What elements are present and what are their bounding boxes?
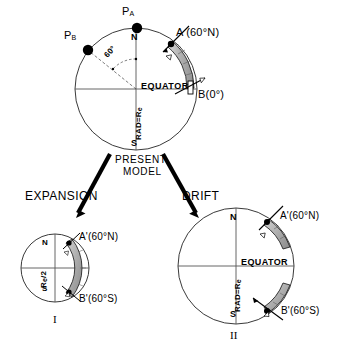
numeral-drift: II: [230, 330, 238, 341]
north-label-expansion: N: [42, 239, 48, 247]
site-b-label-expansion: B'(60°S): [79, 294, 118, 304]
site-a-label-present: A (60°N): [176, 27, 219, 38]
site-a-prime-open-arrow-drift: [260, 233, 265, 238]
radius-label-expansion: Re/2: [40, 271, 48, 288]
branch-arrow-left: [78, 154, 110, 213]
pole-b-label: PB: [64, 30, 76, 41]
north-label-present: N: [131, 33, 138, 42]
site-a-label-drift: A'(60°N): [280, 211, 319, 221]
site-a-open-arrow: [166, 55, 172, 60]
present-model-label-line1: PRESENT: [115, 155, 166, 165]
site-b-label-present: B(0°): [198, 89, 224, 100]
angle-tick-n: [135, 58, 137, 60]
site-a-arrowhead: [163, 48, 168, 53]
numeral-expansion: I: [53, 314, 57, 325]
expansion-model-globe: [21, 233, 89, 302]
pole-b-marker: [83, 45, 93, 55]
equator-label-drift: EQUATOR: [241, 258, 288, 267]
figure-canvas: [0, 0, 341, 350]
south-label-present: S: [131, 139, 137, 148]
radius-label-drift: RAD=Re: [234, 279, 242, 312]
radius-label-present: RAD=Re: [135, 107, 143, 140]
angle-tick-pb: [112, 68, 114, 70]
branch-arrow-right: [163, 154, 196, 213]
angle-arc-60: [113, 59, 136, 69]
branch-label-expansion: EXPANSION: [25, 190, 98, 202]
site-b-prime-arrowhead-drift: [253, 298, 258, 303]
site-b-arrowhead: [200, 78, 205, 83]
equator-label-present: EQUATOR: [141, 82, 189, 91]
site-b-label-drift: B'(60°S): [281, 306, 320, 316]
site-a-prime-open-arrow-expansion: [64, 251, 69, 255]
site-b-block: [188, 81, 193, 94]
site-a-label-expansion: A'(60°N): [79, 232, 118, 242]
present-model-label-line2: MODEL: [123, 167, 162, 177]
pole-a-label: PA: [122, 6, 134, 17]
branch-label-drift: DRIFT: [182, 190, 219, 202]
north-label-drift: N: [230, 213, 237, 222]
